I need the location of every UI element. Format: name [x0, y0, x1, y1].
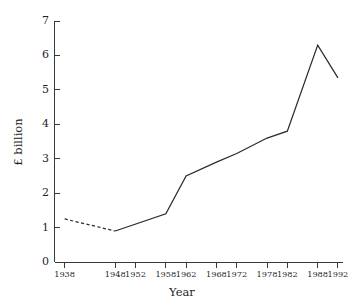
data-line-dashed-segment [65, 219, 116, 231]
x-tick-label: 1968 [206, 269, 227, 279]
y-axis-tick-labels: 0 1 2 3 4 5 6 7 [42, 14, 49, 268]
x-tick-label: 1978 [257, 269, 278, 279]
x-tick-label: 1962 [176, 269, 197, 279]
y-tick-label: 0 [42, 255, 49, 268]
x-tick-label: 1958 [155, 269, 176, 279]
x-tick-label: 1952 [125, 269, 146, 279]
y-tick-label: 3 [42, 152, 49, 165]
line-chart: 0 1 2 3 4 5 6 7 1938 1948 1952 [0, 0, 364, 305]
y-tick-label: 4 [42, 117, 49, 130]
x-axis-title: Year [168, 285, 195, 299]
y-tick-label: 7 [42, 14, 49, 27]
x-axis-tick-labels: 1938 1948 1952 1958 1962 1968 1972 1978 … [54, 269, 348, 279]
x-tick-label: 1988 [307, 269, 328, 279]
y-axis-ticks [55, 21, 60, 262]
chart-canvas: 0 1 2 3 4 5 6 7 1938 1948 1952 [0, 0, 364, 305]
x-axis-ticks [65, 263, 338, 268]
x-tick-label: 1992 [327, 269, 348, 279]
y-tick-label: 1 [42, 221, 49, 234]
x-tick-label: 1948 [105, 269, 126, 279]
y-tick-label: 6 [42, 48, 49, 61]
y-tick-label: 2 [42, 186, 49, 199]
data-series-group [65, 45, 338, 231]
x-tick-label: 1938 [54, 269, 75, 279]
y-tick-label: 5 [42, 83, 49, 96]
data-line-solid-segment [115, 45, 338, 231]
x-tick-label: 1972 [226, 269, 247, 279]
x-tick-label: 1982 [277, 269, 298, 279]
y-axis-title: £ billion [11, 118, 25, 166]
